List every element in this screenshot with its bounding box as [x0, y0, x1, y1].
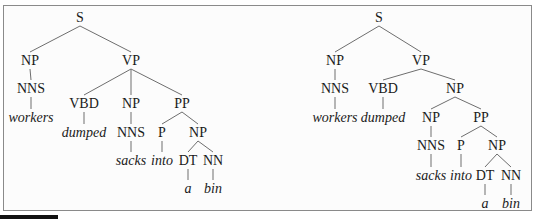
tree-node-label: NP [189, 125, 207, 140]
tree-edge [485, 154, 497, 167]
parse-tree-np-attachment: SNPVPNNSworkersVBDNPdumpedNPPPNNSPNPsack… [312, 10, 521, 211]
tree-leaf-word: workers [312, 110, 358, 125]
tree-node-label: S [375, 10, 383, 25]
tree-leaf-word: sacks [116, 153, 147, 168]
tree-leaf-word: bin [502, 196, 520, 211]
tree-leaf-word: dumped [361, 110, 406, 125]
tree-node-label: VP [122, 53, 140, 68]
tree-node-label: NN [203, 153, 223, 168]
tree-edge [497, 154, 511, 167]
tree-node-label: DT [179, 153, 198, 168]
tree-edge [30, 26, 80, 52]
tree-node-label: NNS [17, 81, 45, 96]
tree-node-label: NP [122, 96, 140, 111]
tree-node-label: PP [473, 110, 489, 125]
tree-edge [30, 69, 31, 80]
tree-node-label: VBD [368, 81, 398, 96]
tree-node-label: NP [422, 110, 440, 125]
tree-node-label: DT [476, 168, 495, 183]
tree-leaf-word: a [482, 196, 489, 211]
tree-node-label: NN [501, 168, 521, 183]
tree-node-label: S [76, 10, 84, 25]
tree-node-label: P [457, 138, 465, 153]
tree-node-label: NNS [117, 125, 145, 140]
tree-edge [84, 69, 131, 95]
tree-edge [421, 69, 455, 80]
tree-node-label: NNS [417, 138, 445, 153]
tree-node-label: P [158, 125, 166, 140]
tree-edge [182, 112, 198, 124]
parse-trees-diagram: SNPVPNNSworkersVBDNPPPdumpedNNSPNPsacksi… [0, 0, 538, 219]
tree-node-label: NP [21, 53, 39, 68]
tree-leaf-word: sacks [416, 168, 447, 183]
tree-leaf-word: into [450, 168, 472, 183]
tree-leaf-word: dumped [62, 125, 107, 140]
tree-node-label: VP [412, 53, 430, 68]
tree-leaf-word: workers [8, 110, 54, 125]
tree-edge [481, 126, 497, 137]
tree-node-label: NP [488, 138, 506, 153]
tree-edge [455, 97, 481, 109]
tree-leaf-word: into [151, 153, 173, 168]
tree-edge [188, 141, 198, 152]
tree-node-label: NP [446, 81, 464, 96]
tree-leaf-word: a [185, 181, 192, 196]
tree-edge [162, 112, 182, 124]
tree-edge [131, 69, 182, 95]
tree-leaf-word: bin [204, 181, 222, 196]
tree-edge [383, 69, 421, 80]
tree-node-label: VBD [69, 96, 99, 111]
page-edge-bar [0, 215, 58, 219]
tree-edge [335, 26, 379, 52]
tree-edge [461, 126, 481, 137]
parse-tree-vp-attachment: SNPVPNNSworkersVBDNPPPdumpedNNSPNPsacksi… [8, 10, 223, 196]
cropped-caption-text [62, 214, 532, 219]
tree-node-label: PP [174, 96, 190, 111]
tree-edge [431, 97, 455, 109]
tree-edge [198, 141, 213, 152]
tree-edge [80, 26, 131, 52]
tree-edge [379, 26, 421, 52]
tree-node-label: NNS [321, 81, 349, 96]
tree-node-label: NP [326, 53, 344, 68]
